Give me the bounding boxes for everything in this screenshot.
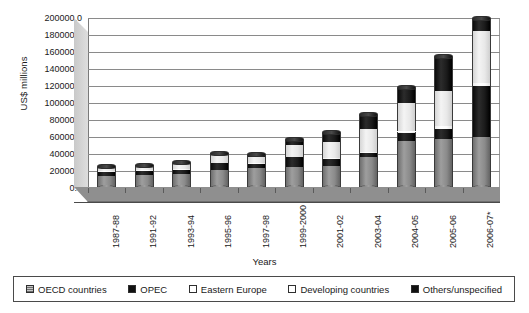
bar-segment[interactable] [322,142,341,158]
x-axis-tick-labels: 1987-881991-921993-941995-961997-981999-… [88,196,500,256]
bar-top-cap [172,160,191,165]
gridline [88,52,500,53]
bar-segment[interactable] [285,157,304,166]
bar-segment[interactable] [397,133,416,141]
bar-top-cap [285,137,304,142]
bar-segment[interactable] [434,126,453,128]
bar-segment[interactable] [359,129,378,152]
bar-segment[interactable] [172,170,191,174]
x-axis-title: Years [0,256,529,267]
legend-label: Others/unspecified [423,284,502,295]
legend-item[interactable]: OECD countries [26,284,107,295]
bar-segment[interactable] [172,169,191,170]
bar-segment[interactable] [434,139,453,188]
x-tick-label: 1995-96 [223,215,233,248]
y-tick-label: 100000.0 [24,99,82,108]
bar-segment[interactable] [285,145,304,157]
bar-top-cap [434,54,453,59]
x-tick-label: 1993-94 [186,215,196,248]
bar-segment[interactable] [359,157,378,188]
x-tick-mark [313,188,314,193]
bar-segment[interactable] [247,163,266,164]
legend-label: OECD countries [38,284,107,295]
y-tick-label: 160000.0 [24,48,82,57]
x-tick-label: 2006-07* [485,211,495,248]
bar-segment[interactable] [322,159,341,166]
x-tick-label: 1987-88 [111,215,121,248]
bar-top-cap [359,112,378,117]
x-tick-mark [388,188,389,193]
x-tick-mark [163,188,164,193]
legend-swatch-icon [411,285,419,293]
x-tick-label: 2005-06 [448,215,458,248]
bar-segment[interactable] [434,129,453,139]
bar-top-cap [397,85,416,90]
bar-segment[interactable] [322,158,341,159]
bar-top-cap [322,130,341,135]
bar-top-cap [210,151,229,156]
bar-top-cap [247,152,266,157]
y-tick-label: 80000.0 [24,116,82,125]
bar-segment[interactable] [434,57,453,91]
bar-segment[interactable] [397,103,416,132]
bar-segment[interactable] [397,132,416,134]
x-tick-label: 2001-02 [335,215,345,248]
x-tick-mark [350,188,351,193]
bar-segment[interactable] [210,163,229,164]
x-tick-mark [425,188,426,193]
bar-segment[interactable] [472,137,491,188]
bar-segment[interactable] [359,153,378,156]
bar-segment[interactable] [472,86,491,137]
bar-segment[interactable] [247,164,266,168]
y-tick-label: 0.0 [24,184,82,193]
plot-area [88,18,500,188]
bar-segment[interactable] [472,83,491,86]
y-tick-label: 40000.0 [24,150,82,159]
y-tick-label: 20000.0 [24,167,82,176]
legend-item[interactable]: Eastern Europe [189,284,267,295]
bar-segment[interactable] [210,163,229,170]
chart-depth-face [74,18,88,188]
bar-segment[interactable] [359,152,378,153]
bar-segment[interactable] [397,141,416,188]
legend-swatch-icon [26,285,34,293]
y-tick-label: 140000.0 [24,65,82,74]
legend-swatch-icon [288,285,296,293]
gridline [88,35,500,36]
x-tick-label: 1997-98 [261,215,271,248]
legend-item[interactable]: OPEC [128,284,167,295]
y-tick-label: 120000.0 [24,82,82,91]
x-tick-label: 1999-2000 [298,205,308,248]
x-tick-mark [275,188,276,193]
legend-swatch-icon [128,285,136,293]
bar-segment[interactable] [434,91,453,127]
y-tick-label: 200000.0 [24,14,82,23]
y-tick-label: 60000.0 [24,133,82,142]
bar-top-cap [97,164,116,169]
x-tick-label: 2004-05 [410,215,420,248]
legend-item[interactable]: Developing countries [288,284,389,295]
bar-segment[interactable] [135,170,154,171]
y-tick-label: 180000.0 [24,31,82,40]
bar-segment[interactable] [135,171,154,176]
stacked-bar-chart: US$ millions 0.020000.040000.060000.0800… [0,0,529,313]
x-tick-label: 1991-92 [148,215,158,248]
x-tick-mark [463,188,464,193]
x-tick-mark [200,188,201,193]
bar-segment[interactable] [472,31,491,84]
bar-top-cap [135,163,154,168]
legend-label: Developing countries [300,284,389,295]
chart-legend: OECD countriesOPECEastern EuropeDevelopi… [13,276,515,302]
x-tick-mark [88,188,89,193]
legend-label: OPEC [140,284,167,295]
gridline [88,18,500,19]
bar-top-cap [472,16,491,21]
legend-swatch-icon [189,285,197,293]
bar-segment[interactable] [285,157,304,158]
x-tick-mark [125,188,126,193]
bar-segment[interactable] [97,172,116,176]
bar-segment[interactable] [210,155,229,163]
x-tick-mark [238,188,239,193]
bar-segment[interactable] [247,157,266,164]
legend-item[interactable]: Others/unspecified [411,284,502,295]
